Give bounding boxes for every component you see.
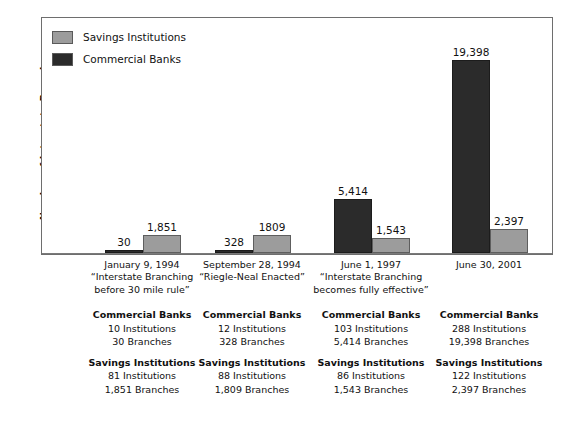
bar-group: 301,851 [105,18,181,254]
bars-plot-area: 301,85132818095,4141,54319,3982,397 [42,18,552,254]
x-axis-caption: June 30, 2001 [414,259,564,271]
chart-figure: Number of Interstate Branches Savings In… [0,0,575,422]
detail-heading-commercial-banks: Commercial Banks [417,308,561,322]
bar-group: 5,4141,543 [334,18,410,254]
caption-line: June 30, 2001 [414,259,564,271]
detail-columns: Commercial Banks10 Institutions30 Branch… [41,308,553,408]
caption-line: “Interstate Branching [296,271,446,283]
detail-savings-branches: 2,397 Branches [417,383,561,397]
bar-value-label: 1,543 [356,224,426,236]
x-axis-captions: January 9, 1994“Interstate Branchingbefo… [41,259,553,303]
bar-group: 3281809 [215,18,291,254]
bar-value-label: 19,398 [436,46,506,58]
bar-commercial-banks [105,250,143,253]
caption-line: before 30 mile rule” [67,284,217,296]
bar-value-label: 2,397 [474,215,544,227]
detail-commercial-branches: 19,398 Branches [417,335,561,349]
bar-savings-institutions [143,235,181,253]
bar-commercial-banks [215,250,253,253]
bar-savings-institutions [490,229,528,253]
bar-savings-institutions [372,238,410,253]
bar-value-label: 1809 [237,221,307,233]
detail-column: Commercial Banks288 Institutions19,398 B… [417,308,561,397]
bar-value-label: 1,851 [127,221,197,233]
bar-value-label: 5,414 [318,185,388,197]
plot-frame: Savings Institutions Commercial Banks 30… [41,17,553,255]
bar-group: 19,3982,397 [452,18,528,254]
bar-savings-institutions [253,235,291,253]
caption-line: becomes fully effective” [296,284,446,296]
detail-spacer [417,349,561,356]
detail-savings-institutions: 122 Institutions [417,369,561,383]
detail-commercial-institutions: 288 Institutions [417,322,561,336]
detail-heading-savings-institutions: Savings Institutions [417,356,561,370]
